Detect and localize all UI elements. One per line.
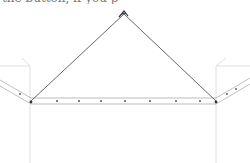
bar-dots — [56, 100, 201, 102]
left-arm — [0, 80, 31, 104]
right-arm-dot — [226, 93, 228, 95]
right-joint — [215, 101, 218, 104]
right-arm — [216, 78, 250, 104]
left-joint — [30, 101, 33, 104]
hanging-bar-sketch — [0, 0, 250, 163]
right-arm-dot — [235, 88, 237, 90]
guide-lines — [0, 58, 250, 163]
left-arm-dot — [19, 93, 21, 95]
main-bar — [31, 98, 216, 104]
hanging-cords — [31, 14, 216, 101]
